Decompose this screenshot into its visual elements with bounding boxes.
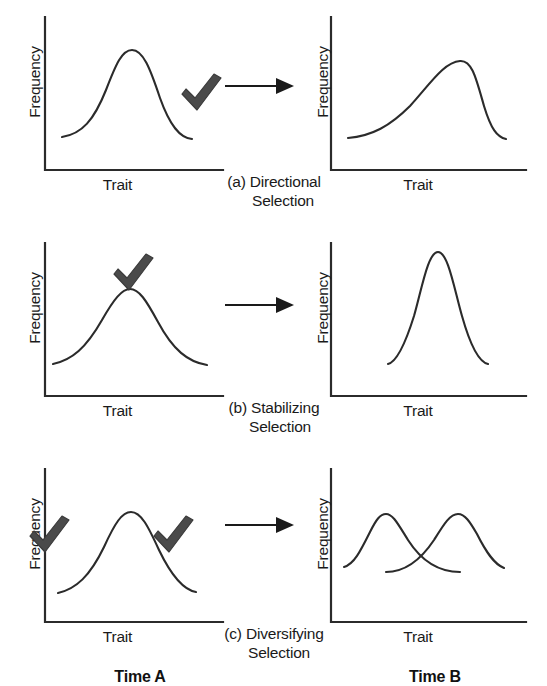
x-axis-label: Trait [10, 176, 225, 194]
x-axis-label: Trait [10, 402, 225, 420]
distribution-curve [53, 289, 207, 365]
row-stabilizing-selection: Frequency Trait (b) Stabilizing Selectio… [0, 226, 547, 453]
check-mark-icon [110, 252, 156, 294]
transition-arrow-icon [224, 514, 296, 536]
check-mark-icon [150, 514, 196, 556]
row-diversifying-selection: Frequency Trait (c) Diversifying Selecti… [0, 452, 547, 679]
x-axis-label: Trait [10, 628, 225, 646]
panel-c-time-b: Frequency Trait [298, 462, 538, 667]
panel-b-time-a: Frequency Trait [10, 236, 225, 441]
panel-b-time-b: Frequency Trait [298, 236, 538, 441]
time-b-label: Time B [340, 668, 530, 686]
x-axis-label: Trait [298, 628, 538, 646]
panel-a-time-a: Frequency Trait [10, 10, 225, 215]
x-axis-label: Trait [298, 176, 538, 194]
distribution-curve-2 [386, 514, 504, 572]
distribution-curve-1 [344, 514, 460, 572]
axes-lines [331, 469, 526, 622]
panel-c-time-a: Frequency Trait [10, 462, 225, 667]
transition-arrow-icon [224, 294, 296, 316]
check-mark-icon [26, 514, 72, 556]
check-mark-icon [178, 72, 224, 114]
distribution-curve [62, 50, 192, 139]
x-axis-label: Trait [298, 402, 538, 420]
axes-lines [331, 17, 526, 170]
time-a-label: Time A [55, 668, 225, 686]
panel-a-time-b: Frequency Trait [298, 10, 538, 215]
transition-arrow-icon [224, 75, 296, 97]
distribution-curve [388, 252, 488, 364]
distribution-curve [348, 61, 506, 139]
row-directional-selection: Frequency Trait (a) Directional Selectio… [0, 0, 547, 227]
